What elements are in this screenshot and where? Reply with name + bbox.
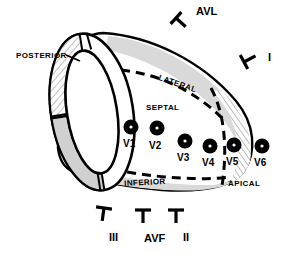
electrode-v2[interactable] <box>150 121 165 136</box>
lead-marker-iii[interactable] <box>94 207 112 222</box>
region-label-apical: APICAL <box>228 180 260 188</box>
electrode-label-v4: V4 <box>202 158 214 168</box>
lead-marker-avf[interactable] <box>135 210 151 223</box>
lead-marker-stem <box>102 208 104 221</box>
electrode-label-v1: V1 <box>123 139 135 149</box>
lead-marker-avl[interactable] <box>171 12 191 33</box>
electrode-center-dot <box>155 126 158 129</box>
lead-label-iii: III <box>109 232 118 243</box>
lead-marker-ii[interactable] <box>168 210 184 223</box>
diagram-artwork <box>0 0 291 265</box>
electrode-v3[interactable] <box>178 134 193 149</box>
electrode-label-v2: V2 <box>149 141 161 151</box>
electrode-v1[interactable] <box>124 120 139 135</box>
electrode-label-v5: V5 <box>226 157 238 167</box>
electrode-center-dot <box>260 144 263 147</box>
ventricle-lead-diagram: POSTERIORLATERALSEPTALINFERIORAPICAL V1V… <box>0 0 291 265</box>
lead-marker-i[interactable] <box>240 49 259 69</box>
lead-label-i: I <box>268 52 271 63</box>
electrode-v6[interactable] <box>255 139 270 154</box>
region-label-posterior: POSTERIOR <box>16 52 67 60</box>
lead-marker-stem <box>244 56 255 62</box>
lead-label-avl: AVL <box>196 6 217 17</box>
region-label-septal: SEPTAL <box>146 104 179 112</box>
electrode-center-dot <box>183 139 186 142</box>
electrode-label-v6: V6 <box>254 158 266 168</box>
electrode-center-dot <box>208 144 211 147</box>
lead-marker-stem <box>176 18 186 27</box>
electrode-center-dot <box>232 143 235 146</box>
electrode-v5[interactable] <box>227 138 242 153</box>
electrode-v4[interactable] <box>203 139 218 154</box>
electrode-center-dot <box>129 125 132 128</box>
lead-label-ii: II <box>183 232 189 243</box>
lead-label-avf: AVF <box>144 233 165 244</box>
electrode-label-v3: V3 <box>177 153 189 163</box>
